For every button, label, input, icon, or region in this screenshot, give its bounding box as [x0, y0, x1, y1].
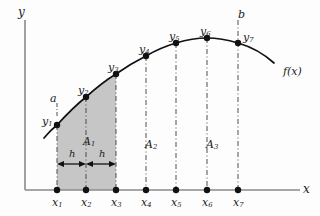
area-label-a3-text: A — [206, 138, 214, 151]
tick-label-x7: x7 — [233, 197, 244, 209]
point-label-y7-sub: 7 — [249, 36, 253, 44]
integration-diagram-svg — [0, 0, 320, 216]
figure-canvas: y x f(x) a b h h A1 A2 A3 y1 y2 y3 y4 y5… — [0, 0, 320, 216]
point-label-y6: y6 — [200, 26, 211, 38]
curve-point-7 — [235, 40, 241, 46]
point-label-y4-sub: 4 — [145, 48, 149, 56]
tick-label-x1-sub: 1 — [58, 201, 62, 209]
tick-label-x3: x3 — [111, 197, 122, 209]
area-label-a2-sub: 2 — [153, 143, 157, 151]
axis-point-7 — [235, 187, 241, 193]
area-label-a2: A2 — [145, 139, 157, 151]
tick-label-x3-sub: 3 — [117, 201, 121, 209]
tick-label-x2: x2 — [81, 197, 92, 209]
axis-point-4 — [143, 187, 149, 193]
interval-lower-label: a — [50, 93, 57, 104]
point-label-y2-sub: 2 — [84, 89, 88, 97]
tick-label-x4-sub: 4 — [147, 201, 151, 209]
axis-point-1 — [54, 187, 60, 193]
point-label-y1: y1 — [42, 116, 53, 128]
tick-label-x7-sub: 7 — [239, 201, 243, 209]
point-label-y5: y5 — [169, 31, 180, 43]
interval-upper-label: b — [238, 9, 245, 20]
area-label-a1-sub: 1 — [91, 140, 95, 148]
area-label-a2-text: A — [145, 138, 153, 151]
area-label-a1: A1 — [83, 136, 95, 148]
axis-point-3 — [113, 187, 119, 193]
area-label-a1-text: A — [83, 135, 91, 148]
x-axis-label: x — [303, 183, 310, 195]
point-label-y5-sub: 5 — [175, 35, 179, 43]
tick-label-x6: x6 — [202, 197, 213, 209]
tick-label-x5: x5 — [171, 197, 182, 209]
h-label-2: h — [99, 149, 105, 159]
h-label-1: h — [69, 149, 75, 159]
point-label-y1-sub: 1 — [48, 120, 52, 128]
point-label-y3-sub: 3 — [114, 66, 118, 74]
tick-label-x1: x1 — [52, 197, 63, 209]
curve-point-1 — [54, 122, 60, 128]
axis-point-2 — [83, 187, 89, 193]
area-label-a3: A3 — [206, 139, 218, 151]
point-label-y2: y2 — [78, 85, 89, 97]
point-label-y6-sub: 6 — [206, 30, 210, 38]
point-label-y3: y3 — [108, 62, 119, 74]
tick-label-x4: x4 — [141, 197, 152, 209]
axis-point-6 — [204, 187, 210, 193]
area-label-a3-sub: 3 — [214, 143, 218, 151]
tick-label-x6-sub: 6 — [208, 201, 212, 209]
point-label-y7: y7 — [243, 32, 254, 44]
function-label: f(x) — [283, 66, 302, 77]
tick-label-x2-sub: 2 — [87, 201, 91, 209]
axis-point-5 — [173, 187, 179, 193]
point-label-y4: y4 — [139, 44, 150, 56]
tick-label-x5-sub: 5 — [177, 201, 181, 209]
y-axis-label: y — [18, 6, 25, 18]
